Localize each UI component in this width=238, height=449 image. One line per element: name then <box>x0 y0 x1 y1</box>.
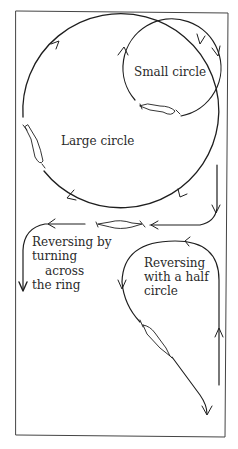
reversing-half-label-2: with a half <box>144 270 209 284</box>
reversing-across-label-1: Reversing by <box>32 235 111 249</box>
arrow-icon <box>178 189 187 197</box>
reversing-across-label-4: the ring <box>32 278 80 292</box>
horse-icon <box>96 221 145 229</box>
large-circle-label: Large circle <box>61 134 134 148</box>
reversing-across-label-2: turning <box>32 249 77 263</box>
small-circle-label: Small circle <box>134 65 206 79</box>
horse-icon <box>140 104 180 114</box>
reversing-half-label-3: circle <box>144 284 178 298</box>
half-circle-exit-path <box>172 357 207 414</box>
reversing-across-label-3: across <box>45 264 84 278</box>
large-circle-path <box>23 14 219 208</box>
reversing-half-label-1: Reversing <box>144 256 205 270</box>
horse-icon <box>140 320 172 358</box>
arrow-icon <box>197 34 205 44</box>
horse-icon <box>23 125 45 168</box>
